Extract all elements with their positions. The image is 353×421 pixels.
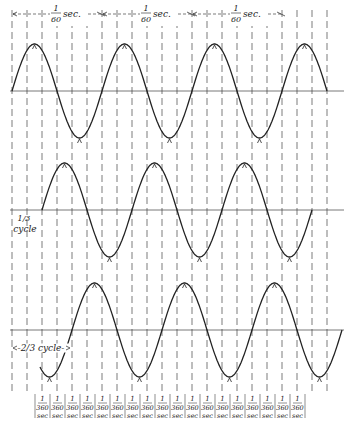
tick-unit: sec xyxy=(277,412,288,420)
phase-offset-labels: 1/3cycle-2/3 cycle- xyxy=(13,214,70,353)
tick-denominator: 360 xyxy=(216,404,228,412)
tick-denominator: 360 xyxy=(96,404,108,412)
three-phase-diagram: 160sec.160sec.160sec. 1/3cycle-2/3 cycle… xyxy=(0,0,353,421)
tick-denominator: 360 xyxy=(141,404,153,412)
tick-numerator: 1 xyxy=(55,395,59,403)
tick-unit: sec xyxy=(67,412,78,420)
arrow-icon xyxy=(318,378,322,382)
tick-numerator: 1 xyxy=(205,395,209,403)
tick-unit: sec xyxy=(172,412,183,420)
tick-numerator: 1 xyxy=(145,395,149,403)
tick-unit: sec xyxy=(157,412,168,420)
tick-denominator: 360 xyxy=(51,404,63,412)
tick-unit: sec xyxy=(112,412,123,420)
tick-numerator: 1 xyxy=(190,395,194,403)
tick-numerator: 1 xyxy=(160,395,164,403)
arrow-icon xyxy=(303,45,307,49)
phase-label-cycle: cycle xyxy=(13,224,36,234)
tick-numerator: 1 xyxy=(280,395,284,403)
period-denominator: 60 xyxy=(231,15,241,24)
phase-fraction-1-3: 1/3 xyxy=(18,214,31,223)
arrow-icon xyxy=(107,258,111,262)
tick-numerator: 1 xyxy=(235,395,239,403)
tick-numerator: 1 xyxy=(40,395,44,403)
tick-denominator: 360 xyxy=(261,404,273,412)
tick-denominator: 360 xyxy=(126,404,138,412)
tick-numerator: 1 xyxy=(175,395,179,403)
period-numerator: 1 xyxy=(233,4,238,13)
tick-numerator: 1 xyxy=(85,395,89,403)
arrow-icon xyxy=(168,139,172,143)
period-unit: sec. xyxy=(63,9,81,19)
tick-unit: sec xyxy=(232,412,243,420)
tick-denominator: 360 xyxy=(36,404,48,412)
period-unit: sec. xyxy=(243,9,261,19)
tick-cells-1-360-sec: 1360sec1360sec1360sec1360sec1360sec1360s… xyxy=(35,394,305,421)
arrow-icon xyxy=(123,45,127,49)
arrow-icon xyxy=(258,139,262,143)
tick-unit: sec xyxy=(202,412,213,420)
period-numerator: 1 xyxy=(53,4,58,13)
arrow-icon xyxy=(78,139,82,143)
tick-unit: sec xyxy=(217,412,228,420)
tick-numerator: 1 xyxy=(265,395,269,403)
tick-unit: sec xyxy=(127,412,138,420)
period-unit: sec. xyxy=(153,9,171,19)
dashed-guide-lines xyxy=(12,10,327,392)
tick-numerator: 1 xyxy=(220,395,224,403)
tick-denominator: 360 xyxy=(66,404,78,412)
tick-denominator: 360 xyxy=(156,404,168,412)
tick-denominator: 360 xyxy=(111,404,123,412)
arrow-icon xyxy=(273,284,277,288)
arrow-icon xyxy=(62,164,66,168)
period-dimension-labels: 160sec.160sec.160sec. xyxy=(13,4,285,26)
tick-unit: sec xyxy=(187,412,198,420)
arrow-icon xyxy=(213,45,217,49)
period-denominator: 60 xyxy=(141,15,151,24)
tick-unit: sec xyxy=(37,412,48,420)
tick-unit: sec xyxy=(247,412,258,420)
tick-denominator: 360 xyxy=(81,404,93,412)
phase-label-2-3-cycle: -2/3 cycle- xyxy=(18,343,65,353)
tick-numerator: 1 xyxy=(130,395,134,403)
arrow-icon xyxy=(138,378,142,382)
arrow-icon xyxy=(152,164,156,168)
tick-unit: sec xyxy=(262,412,273,420)
diagram-canvas: 160sec.160sec.160sec. 1/3cycle-2/3 cycle… xyxy=(0,0,353,421)
tick-numerator: 1 xyxy=(70,395,74,403)
arrow-icon xyxy=(287,258,291,262)
tick-denominator: 360 xyxy=(231,404,243,412)
arrow-icon xyxy=(228,378,232,382)
tick-denominator: 360 xyxy=(291,404,303,412)
tick-unit: sec xyxy=(292,412,303,420)
period-numerator: 1 xyxy=(143,4,148,13)
tick-numerator: 1 xyxy=(295,395,299,403)
tick-numerator: 1 xyxy=(100,395,104,403)
tick-unit: sec xyxy=(52,412,63,420)
tick-denominator: 360 xyxy=(246,404,258,412)
tick-unit: sec xyxy=(97,412,108,420)
tick-denominator: 360 xyxy=(171,404,183,412)
arrow-icon xyxy=(183,284,187,288)
arrow-icon xyxy=(197,258,201,262)
tick-unit: sec xyxy=(142,412,153,420)
arrow-icon xyxy=(33,45,37,49)
tick-denominator: 360 xyxy=(186,404,198,412)
arrow-icon xyxy=(48,378,52,382)
period-denominator: 60 xyxy=(51,15,61,24)
arrow-icon xyxy=(93,284,97,288)
tick-unit: sec xyxy=(82,412,93,420)
tick-denominator: 360 xyxy=(276,404,288,412)
tick-denominator: 360 xyxy=(201,404,213,412)
tick-numerator: 1 xyxy=(115,395,119,403)
tick-numerator: 1 xyxy=(250,395,254,403)
arrow-icon xyxy=(242,164,246,168)
